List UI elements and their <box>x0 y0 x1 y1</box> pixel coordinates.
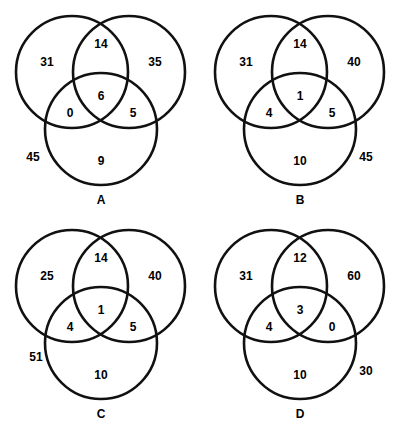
region-center: 1 <box>98 304 105 316</box>
region-left-only: 25 <box>40 270 53 282</box>
region-outside: 45 <box>359 151 372 163</box>
region-outside: 45 <box>26 151 39 163</box>
region-outside: 51 <box>29 351 42 363</box>
region-center: 3 <box>297 304 304 316</box>
region-bottom-only: 10 <box>94 369 107 381</box>
region-left-only: 31 <box>239 270 252 282</box>
region-top-overlap: 14 <box>94 252 107 264</box>
region-outside: 30 <box>359 365 372 377</box>
region-right-only: 40 <box>148 270 161 282</box>
region-right-only: 60 <box>347 270 360 282</box>
region-right-only: 40 <box>347 56 360 68</box>
region-left-overlap: 4 <box>266 321 273 333</box>
panel-label: C <box>97 408 106 420</box>
venn-circles-d <box>199 214 398 428</box>
region-left-only: 31 <box>40 56 53 68</box>
venn-circles-a <box>0 0 199 214</box>
region-left-overlap: 0 <box>67 107 74 119</box>
venn-panel-c: 25 14 40 4 1 5 10 51 C <box>0 214 199 428</box>
region-bottom-only: 10 <box>293 369 306 381</box>
panel-label: D <box>296 408 305 420</box>
venn-panel-b: 31 14 40 4 1 5 10 45 B <box>199 0 398 214</box>
panel-label: B <box>296 194 305 206</box>
region-top-overlap: 14 <box>94 38 107 50</box>
venn-diagram-figure: 31 14 35 0 6 5 9 45 A 31 14 40 4 1 5 10 … <box>0 0 398 428</box>
region-right-overlap: 0 <box>329 321 336 333</box>
region-center: 6 <box>98 90 105 102</box>
region-left-overlap: 4 <box>67 321 74 333</box>
region-right-overlap: 5 <box>329 107 336 119</box>
venn-circles-c <box>0 214 199 428</box>
region-top-overlap: 12 <box>293 252 306 264</box>
venn-circles-b <box>199 0 398 214</box>
region-left-only: 31 <box>239 56 252 68</box>
region-bottom-only: 10 <box>293 155 306 167</box>
panel-label: A <box>97 194 106 206</box>
region-bottom-only: 9 <box>98 155 105 167</box>
region-right-only: 35 <box>148 56 161 68</box>
venn-panel-a: 31 14 35 0 6 5 9 45 A <box>0 0 199 214</box>
region-top-overlap: 14 <box>293 38 306 50</box>
venn-panel-d: 31 12 60 4 3 0 10 30 D <box>199 214 398 428</box>
region-center: 1 <box>297 90 304 102</box>
region-left-overlap: 4 <box>266 107 273 119</box>
region-right-overlap: 5 <box>130 107 137 119</box>
region-right-overlap: 5 <box>130 321 137 333</box>
